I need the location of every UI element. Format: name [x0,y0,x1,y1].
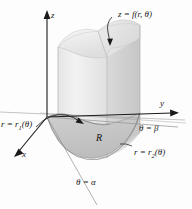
inner-radius-text: r = r [1,119,19,129]
outer-radius-label: r = r2(θ) [134,148,165,159]
z-axis [44,10,51,117]
theta-beta-label: θ = β [139,124,158,133]
x-axis-label: x [22,150,26,159]
polar-solid-figure: z y x z = f(r, θ) r = r1(θ) r = r2(θ) θ … [0,0,192,209]
z-axis-label: z [51,11,55,20]
region-label: R [96,133,102,143]
outer-radius-text: r = r [134,147,152,157]
y-axis-label: y [160,99,164,108]
inner-radius-label: r = r1(θ) [1,120,32,131]
surface-equation-label: z = f(r, θ) [118,10,152,19]
outer-radius-argument: (θ) [155,147,165,157]
inner-radius-argument: (θ) [22,119,32,129]
theta-alpha-label: θ = α [76,178,96,187]
